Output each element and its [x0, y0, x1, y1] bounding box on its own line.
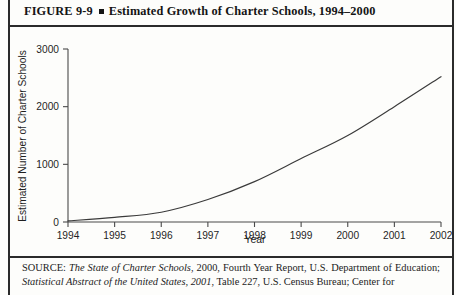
figure-title-text: Estimated Growth of Charter Schools, 199…	[109, 4, 376, 18]
x-tick-label: 1995	[103, 230, 126, 241]
data-series-line	[68, 77, 441, 221]
x-tick-label: 2002	[430, 230, 452, 241]
chart-area: 0100020003000 19941995199619971998199920…	[10, 28, 452, 246]
y-tick-label: 2000	[36, 101, 59, 112]
y-axis-ticks	[63, 49, 68, 222]
source-divider	[10, 256, 452, 258]
y-axis-label: Estimated Number of Charter Schools	[17, 50, 28, 222]
figure-title-band: FIGURE 9-9Estimated Growth of Charter Sc…	[10, 0, 452, 26]
square-bullet-icon	[99, 9, 104, 14]
y-axis-tick-labels: 0100020003000	[36, 44, 59, 228]
y-tick-label: 3000	[36, 44, 59, 55]
source-text-2: , Table 227, U.S. Census Bureau; Center …	[211, 276, 394, 287]
source-text-1: , 2000, Fourth Year Report, U.S. Departm…	[191, 262, 440, 273]
x-tick-label: 2001	[383, 230, 406, 241]
y-tick-label: 0	[53, 217, 59, 228]
x-tick-label: 1999	[290, 230, 313, 241]
x-tick-label: 1997	[197, 230, 220, 241]
source-italic-title-1: The State of Charter Schools	[69, 262, 191, 273]
source-note: SOURCE: The State of Charter Schools, 20…	[22, 261, 440, 290]
figure-page: FIGURE 9-9Estimated Growth of Charter Sc…	[0, 0, 456, 295]
title-divider	[10, 25, 452, 27]
source-italic-title-2: Statistical Abstract of the United State…	[22, 276, 211, 287]
x-tick-label: 2000	[336, 230, 359, 241]
x-axis-ticks	[68, 222, 441, 227]
source-prefix: SOURCE:	[22, 262, 66, 273]
x-tick-label: 1996	[150, 230, 173, 241]
y-tick-label: 1000	[36, 159, 59, 170]
x-tick-label: 1994	[57, 230, 80, 241]
x-axis-label: Year	[245, 234, 267, 245]
line-chart: 0100020003000 19941995199619971998199920…	[10, 28, 452, 246]
page-title: FIGURE 9-9Estimated Growth of Charter Sc…	[24, 4, 376, 19]
page-right-rule	[452, 0, 454, 295]
figure-number: FIGURE 9-9	[24, 4, 93, 18]
